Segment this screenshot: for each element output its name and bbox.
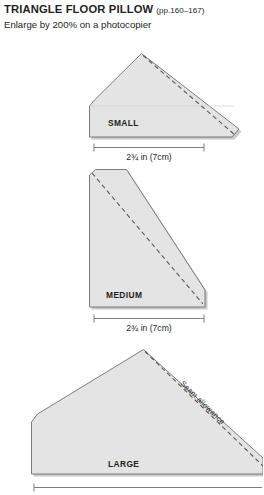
dimension-large [33,483,263,495]
dimension-small: 2¾ in (7cm) [93,143,205,165]
pattern-medium: MEDIUM [88,168,213,313]
page-header: TRIANGLE FLOOR PILLOW(pp.160–167) Enlarg… [4,1,259,32]
large-shape-label: LARGE [108,459,139,469]
small-shape-label: SMALL [108,118,139,128]
dimension-large-line [33,483,263,493]
page-title: TRIANGLE FLOOR PILLOW(pp.160–167) [4,1,259,17]
page-subtitle: Enlarge by 200% on a photocopier [4,18,259,32]
dimension-medium: 2¾ in (7cm) [93,314,205,336]
pattern-large-shape: Seam allowance LARGE [30,348,263,480]
page-reference: (pp.160–167) [156,6,204,15]
pattern-small-shape: SMALL [88,52,243,142]
pattern-medium-shape: MEDIUM [88,168,213,313]
dimension-small-label: 2¾ in (7cm) [93,152,205,163]
pattern-large: Seam allowance LARGE [30,348,263,480]
medium-shape-label: MEDIUM [106,290,142,300]
pattern-small: SMALL [88,52,243,142]
page-title-text: TRIANGLE FLOOR PILLOW [4,3,153,15]
dimension-medium-label: 2¾ in (7cm) [93,323,205,334]
large-shape-outline [32,350,264,475]
